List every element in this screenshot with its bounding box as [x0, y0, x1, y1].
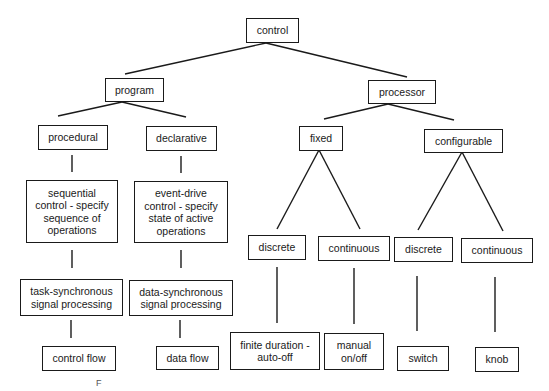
node-data-flow: data flow [156, 346, 219, 370]
node-data-synchronous: data-synchronous signal processing [129, 280, 233, 316]
node-configurable: configurable [424, 129, 503, 153]
node-procedural: procedural [38, 125, 108, 150]
node-sequential-control: sequential control - specify sequence of… [26, 180, 118, 243]
node-control: control [246, 18, 299, 43]
node-configurable-continuous: continuous [461, 238, 533, 263]
node-finite-duration: finite duration - auto-off [230, 332, 320, 370]
node-switch: switch [397, 346, 449, 371]
node-fixed: fixed [299, 126, 343, 151]
node-manual-onoff: manual on/off [324, 333, 384, 370]
node-fixed-continuous: continuous [318, 236, 390, 261]
node-control-flow: control flow [42, 346, 116, 371]
node-configurable-discrete: discrete [394, 237, 453, 262]
node-event-drive-control: event-drive control - specify state of a… [134, 181, 228, 243]
node-declarative: declarative [146, 126, 217, 151]
node-program: program [105, 78, 164, 102]
stray-mark: F [96, 378, 102, 388]
node-task-synchronous: task-synchronous signal processing [20, 279, 123, 316]
node-fixed-discrete: discrete [248, 235, 306, 260]
node-knob: knob [475, 347, 519, 372]
node-processor: processor [368, 80, 436, 104]
